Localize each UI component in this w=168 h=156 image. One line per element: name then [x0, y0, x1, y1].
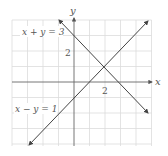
- coordinate-plane: y x 2 2 x + y = 3 x − y = 1: [0, 0, 168, 156]
- y-axis-label: y: [69, 5, 76, 16]
- x-tick-label: 2: [102, 86, 108, 96]
- line-x-minus-y-eq-1: [29, 21, 148, 145]
- equation-label-1: x + y = 3: [22, 27, 65, 37]
- x-axis-label: x: [155, 76, 161, 87]
- y-tick-label: 2: [65, 48, 71, 58]
- equation-label-2: x − y = 1: [15, 104, 57, 114]
